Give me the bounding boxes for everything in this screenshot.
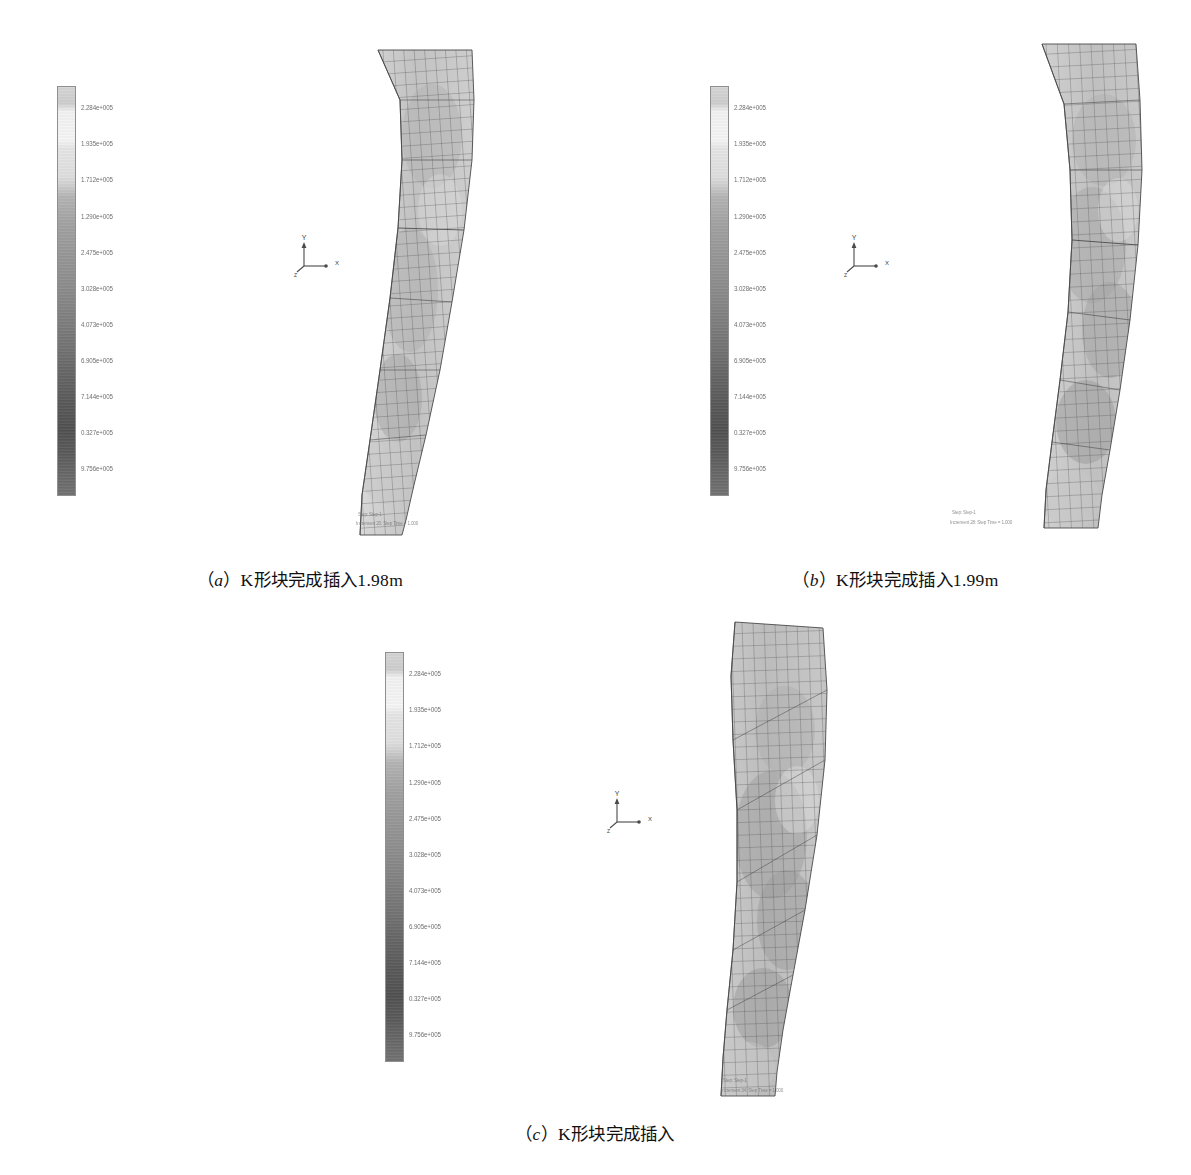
colorbar-tick: 4.073e+005 <box>734 321 766 329</box>
caption-index: b <box>810 570 819 590</box>
colorbar-tick-list-c: 2.284e+005 1.935e+005 1.712e+005 1.290e+… <box>409 652 487 1062</box>
caption-text: K形块完成插入1.98m <box>241 570 403 590</box>
colorbar-tick: 1.712e+005 <box>734 176 766 184</box>
colorbar-tick: 0.327e+005 <box>81 429 113 437</box>
svg-text:Y: Y <box>302 234 307 241</box>
fe-model-b <box>1000 30 1190 540</box>
colorbar-tick: 9.756e+005 <box>81 465 113 473</box>
caption-index: c <box>533 1124 541 1144</box>
caption-paren-open: （ <box>515 1124 532 1144</box>
colorbar-tick: 2.475e+005 <box>81 249 113 257</box>
svg-text:Z: Z <box>607 828 610 834</box>
colorbar-tick: 2.475e+005 <box>734 249 766 257</box>
colorbar-tick: 1.290e+005 <box>734 213 766 221</box>
colorbar-tick: 7.144e+005 <box>409 959 441 967</box>
colorbar-tick: 3.028e+005 <box>734 285 766 293</box>
svg-text:X: X <box>335 260 339 266</box>
colorbar-tick: 1.935e+005 <box>81 140 113 148</box>
colorbar-tick: 7.144e+005 <box>81 393 113 401</box>
fe-model-c <box>675 610 865 1105</box>
model-footer-line1-c: Step: Step-1 <box>723 1078 747 1083</box>
caption-index: a <box>214 570 223 590</box>
caption-paren-open: （ <box>197 570 214 590</box>
svg-text:Y: Y <box>615 790 620 797</box>
subfigure-panel-c: 2.284e+005 1.935e+005 1.712e+005 1.290e+… <box>295 600 895 1175</box>
colorbar-tick: 0.327e+005 <box>409 995 441 1003</box>
caption-text: K形块完成插入 <box>558 1124 675 1144</box>
model-footer-line1-b: Step: Step-1 <box>952 510 976 515</box>
model-footer-line2-c: Increment 34: Step Time = 1.000 <box>721 1088 783 1093</box>
model-footer-line1-a: Step: Step-1 <box>358 512 382 517</box>
colorbar-tick: 1.712e+005 <box>409 742 441 750</box>
colorbar-tick: 1.290e+005 <box>409 779 441 787</box>
colorbar-gradient-a <box>57 86 76 496</box>
colorbar-tick: 4.073e+005 <box>81 321 113 329</box>
coordinate-triad-a: Y X Z <box>292 234 344 280</box>
caption-paren-open: （ <box>792 570 809 590</box>
coordinate-triad-c: Y X Z <box>605 790 657 836</box>
colorbar-tick: 6.905e+005 <box>409 923 441 931</box>
caption-b: （b）K形块完成插入1.99m <box>600 566 1191 591</box>
svg-text:Z: Z <box>294 272 297 278</box>
subfigure-panel-b: 2.284e+005 1.935e+005 1.712e+005 1.290e+… <box>600 0 1191 610</box>
colorbar-tick-list-b: 2.284e+005 1.935e+005 1.712e+005 1.290e+… <box>734 86 812 496</box>
colorbar-gradient-b <box>710 86 729 496</box>
model-footer-line2-b: Increment 28: Step Time = 1.000 <box>950 520 1012 525</box>
colorbar-tick: 2.284e+005 <box>81 104 113 112</box>
colorbar-tick: 0.327e+005 <box>734 429 766 437</box>
colorbar-gradient-c <box>385 652 404 1062</box>
colorbar-tick: 1.712e+005 <box>81 176 113 184</box>
colorbar-tick: 2.284e+005 <box>409 670 441 678</box>
colorbar-tick: 6.905e+005 <box>734 357 766 365</box>
model-footer-line2-a: Increment 20: Step Time = 1.000 <box>356 521 418 526</box>
caption-c: （c）K形块完成插入 <box>295 1120 895 1145</box>
coordinate-triad-b: Y X Z <box>842 234 894 280</box>
figure-page: 2.284e+005 1.935e+005 1.712e+005 1.290e+… <box>0 0 1191 1175</box>
colorbar-tick: 1.935e+005 <box>734 140 766 148</box>
colorbar-tick: 2.475e+005 <box>409 815 441 823</box>
svg-text:Z: Z <box>844 272 847 278</box>
svg-text:X: X <box>885 260 889 266</box>
svg-text:X: X <box>648 816 652 822</box>
colorbar-tick-list-a: 2.284e+005 1.935e+005 1.712e+005 1.290e+… <box>81 86 159 496</box>
subfigure-panel-a: 2.284e+005 1.935e+005 1.712e+005 1.290e+… <box>0 0 600 610</box>
caption-paren-close: ） <box>819 570 836 590</box>
colorbar-tick: 7.144e+005 <box>734 393 766 401</box>
colorbar-tick: 1.290e+005 <box>81 213 113 221</box>
fe-model-a <box>340 40 520 540</box>
caption-a: （a）K形块完成插入1.98m <box>0 566 600 591</box>
colorbar-tick: 6.905e+005 <box>81 357 113 365</box>
caption-paren-close: ） <box>223 570 240 590</box>
colorbar-tick: 9.756e+005 <box>734 465 766 473</box>
colorbar-tick: 1.935e+005 <box>409 706 441 714</box>
colorbar-tick: 4.073e+005 <box>409 887 441 895</box>
caption-text: K形块完成插入1.99m <box>836 570 998 590</box>
colorbar-tick: 3.028e+005 <box>81 285 113 293</box>
colorbar-tick: 9.756e+005 <box>409 1031 441 1039</box>
svg-text:Y: Y <box>852 234 857 241</box>
caption-paren-close: ） <box>541 1124 558 1144</box>
colorbar-tick: 2.284e+005 <box>734 104 766 112</box>
colorbar-tick: 3.028e+005 <box>409 851 441 859</box>
